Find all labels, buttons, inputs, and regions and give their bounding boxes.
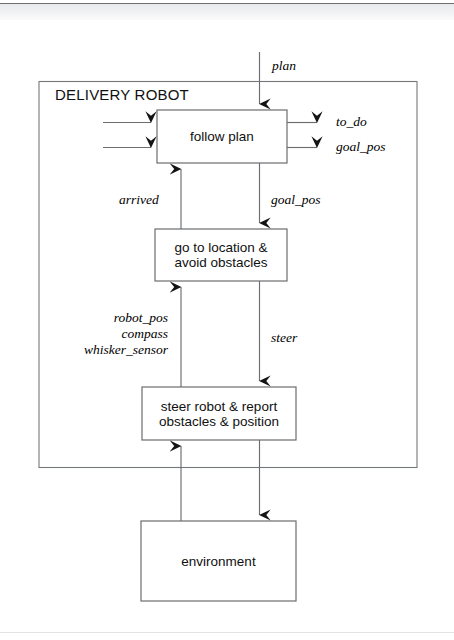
signal-label-steer: steer <box>271 330 297 346</box>
follow-plan-label: follow plan <box>190 129 254 144</box>
signal-label-to-do: to_do <box>336 114 367 130</box>
environment-label: environment <box>181 554 255 569</box>
steer-robot-label-line2: obstacles & position <box>159 414 279 429</box>
steer-robot-label-wrap: steer robot & report obstacles & positio… <box>142 387 296 440</box>
environment-label-wrap: environment <box>141 521 296 601</box>
signal-label-robot-pos: robot_pos <box>0 310 168 326</box>
signal-label-goal-pos-out: goal_pos <box>336 139 386 155</box>
signal-label-sensors: robot_pos compass whisker_sensor <box>0 310 168 358</box>
signal-label-plan: plan <box>272 58 296 74</box>
go-to-location-label: go to location & avoid obstacles <box>174 240 267 270</box>
go-to-location-label-line1: go to location & <box>174 240 267 255</box>
signal-label-compass: compass <box>0 326 168 342</box>
go-to-location-label-wrap: go to location & avoid obstacles <box>155 229 287 281</box>
scanned-page: DELIVERY ROBOT follow plan go to locatio… <box>0 0 454 640</box>
system-boundary-label: DELIVERY ROBOT <box>55 86 189 104</box>
signal-label-arrived: arrived <box>119 192 159 208</box>
steer-robot-label-line1: steer robot & report <box>159 399 279 414</box>
go-to-location-label-line2: avoid obstacles <box>174 255 267 270</box>
signal-label-whisker-sensor: whisker_sensor <box>0 342 168 358</box>
follow-plan-label-wrap: follow plan <box>157 110 287 163</box>
signal-label-goal-pos-down: goal_pos <box>271 192 321 208</box>
steer-robot-label: steer robot & report obstacles & positio… <box>159 399 279 429</box>
